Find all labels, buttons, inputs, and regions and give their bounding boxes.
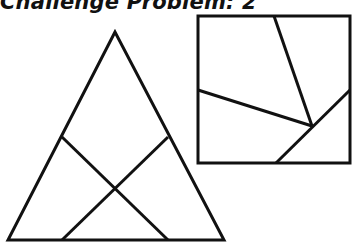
triangle-outline: [8, 32, 224, 240]
dissection-figures: [0, 0, 353, 252]
square-outline: [198, 16, 350, 163]
square-figure: [198, 16, 350, 163]
triangle-figure: [8, 32, 224, 240]
square-inner-line: [274, 16, 312, 126]
square-inner-line: [198, 90, 312, 126]
square-inner-line: [276, 90, 350, 163]
